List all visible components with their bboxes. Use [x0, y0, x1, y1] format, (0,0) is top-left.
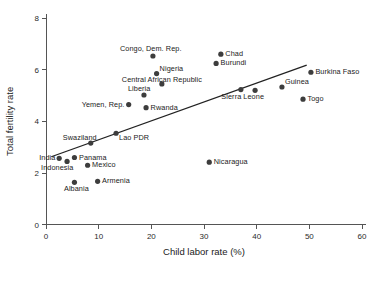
y-tick-label: 8 — [35, 14, 40, 23]
point-label: Togo — [308, 95, 324, 103]
point-label: Chad — [225, 50, 243, 58]
data-point — [57, 156, 62, 161]
x-axis-title: Child labor rate (%) — [163, 246, 245, 257]
point-label: Rwanda — [151, 104, 178, 112]
data-point — [95, 179, 100, 184]
point-label: Congo, Dem. Rep. — [120, 45, 182, 53]
x-tick-label: 30 — [200, 232, 209, 241]
x-tick-label: 40 — [252, 232, 261, 241]
point-label: Liberia — [128, 85, 150, 93]
y-axis-title: Total fertility rate — [4, 87, 15, 156]
point-label: Nigeria — [160, 65, 184, 73]
data-point — [143, 105, 148, 110]
point-label: Burundi — [221, 59, 247, 67]
data-point — [308, 70, 313, 75]
point-label: Burkina Faso — [315, 68, 359, 76]
data-point — [85, 163, 90, 168]
point-label: Lao PDR — [119, 134, 149, 142]
x-tick-label: 60 — [358, 232, 367, 241]
point-label: Armenia — [102, 177, 130, 185]
point-label: Albania — [64, 185, 89, 193]
axes: 024680102030405060 — [35, 14, 367, 241]
data-point — [113, 131, 118, 136]
y-tick-label: 2 — [35, 169, 40, 178]
x-tick-label: 10 — [94, 232, 103, 241]
point-label: Mexico — [92, 161, 116, 169]
data-point — [300, 97, 305, 102]
y-tick-label: 0 — [35, 221, 40, 230]
point-label: Central African Republic — [122, 76, 202, 84]
scatter-chart: 024680102030405060 Child labor rate (%)T… — [0, 0, 383, 281]
x-tick-label: 50 — [305, 232, 314, 241]
point-label: Nicaragua — [214, 158, 248, 166]
data-point — [218, 52, 223, 57]
y-tick-label: 4 — [35, 117, 40, 126]
point-label: India — [39, 154, 55, 162]
x-tick-label: 0 — [44, 232, 49, 241]
point-label: Guinea — [285, 78, 309, 86]
point-label: Sierra Leone — [221, 93, 264, 101]
data-point — [279, 84, 284, 89]
point-label: Indonesia — [41, 164, 73, 172]
data-point — [72, 155, 77, 160]
y-tick-label: 6 — [35, 66, 40, 75]
data-point — [126, 102, 131, 107]
x-tick-label: 20 — [147, 232, 156, 241]
point-label: Yemen, Rep. — [82, 101, 125, 109]
data-point — [207, 160, 212, 165]
plot-area: 024680102030405060 Child labor rate (%)T… — [0, 0, 383, 281]
data-point — [150, 53, 155, 58]
data-point — [214, 61, 219, 66]
point-label: Swaziland — [63, 134, 97, 142]
